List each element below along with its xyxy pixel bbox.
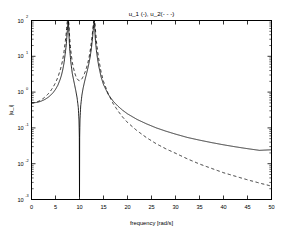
x-tick-label: 40 <box>220 204 226 210</box>
frequency-response-chart: u_1 (-), u_2(- - -) 05101520253035404550… <box>0 0 283 234</box>
x-tick-label: 30 <box>172 204 178 210</box>
x-tick-label: 45 <box>244 204 250 210</box>
figure-background <box>0 0 283 234</box>
y-tick-label: 10 <box>17 89 23 95</box>
y-tick-exponent: -2 <box>25 158 28 163</box>
y-axis-label: |u_i| <box>8 105 14 116</box>
y-tick-label: 10 <box>17 197 23 203</box>
x-axis-label: frequency [rad/s] <box>130 220 174 226</box>
y-tick-exponent: -3 <box>25 193 28 198</box>
x-tick-label: 35 <box>196 204 202 210</box>
y-tick-label: 10 <box>17 161 23 167</box>
x-tick-label: 10 <box>76 204 82 210</box>
x-tick-label: 15 <box>100 204 106 210</box>
y-tick-label: 10 <box>17 125 23 131</box>
chart-title: u_1 (-), u_2(- - -) <box>129 10 175 17</box>
x-tick-label: 20 <box>124 204 130 210</box>
y-tick-label: 10 <box>17 18 23 24</box>
y-tick-exponent: 1 <box>26 50 28 55</box>
x-tick-label: 5 <box>54 204 57 210</box>
y-tick-exponent: 2 <box>26 14 28 19</box>
y-tick-exponent: -1 <box>25 122 28 127</box>
figure-container: u_1 (-), u_2(- - -) 05101520253035404550… <box>0 0 283 234</box>
x-tick-label: 25 <box>148 204 154 210</box>
y-tick-label: 10 <box>17 53 23 59</box>
x-tick-label: 50 <box>268 204 274 210</box>
x-tick-label: 0 <box>30 204 33 210</box>
